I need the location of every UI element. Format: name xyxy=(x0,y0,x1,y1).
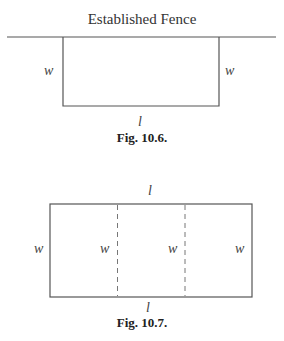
label-w-left: w xyxy=(44,63,53,79)
label-l-bottom-2: l xyxy=(146,300,150,316)
label-w-right: w xyxy=(225,63,234,79)
fig-10-7-caption: Fig. 10.7. xyxy=(0,315,284,331)
diagram-lines xyxy=(0,0,284,341)
new-fence-outline xyxy=(63,37,219,106)
fig-10-6-caption: Fig. 10.6. xyxy=(0,130,284,146)
label-w-1: w xyxy=(34,241,43,257)
label-w-3: w xyxy=(168,241,177,257)
fig-10-6-title: Established Fence xyxy=(0,11,284,28)
label-l-bottom: l xyxy=(138,114,142,130)
field-rectangle xyxy=(50,204,252,297)
label-w-4: w xyxy=(235,241,244,257)
label-l-top: l xyxy=(148,183,152,199)
label-w-2: w xyxy=(100,241,109,257)
